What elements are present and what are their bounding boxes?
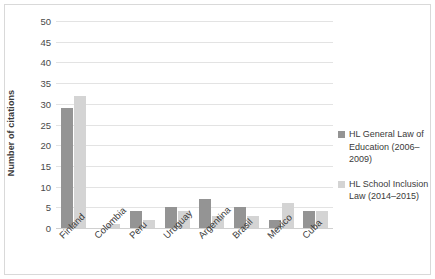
y-tick-label-5: 5 — [46, 202, 51, 213]
bar-series-layer — [56, 21, 333, 228]
y-axis-title-label: Number of citations — [6, 90, 16, 176]
x-label-slot-colombia: Colombia — [91, 230, 126, 275]
bar-group-finland — [56, 21, 91, 228]
bar-finland-series-0 — [61, 108, 73, 228]
bar-group-mexico — [264, 21, 299, 228]
x-label-slot-brasil: Brasil — [229, 230, 264, 275]
y-tick-label-50: 50 — [40, 16, 51, 27]
chart-legend: HL General Law of Education (2006–2009)H… — [338, 128, 432, 215]
bar-finland-series-1 — [74, 96, 86, 228]
y-tick-label-0: 0 — [46, 223, 51, 234]
x-label-slot-mexico: Mexico — [264, 230, 299, 275]
x-label-slot-finland: Finland — [56, 230, 91, 275]
y-tick-label-25: 25 — [40, 119, 51, 130]
y-tick-label-10: 10 — [40, 181, 51, 192]
bar-group-cuba — [298, 21, 333, 228]
x-label-slot-argentina: Argentina — [195, 230, 230, 275]
bar-group-colombia — [91, 21, 126, 228]
plot-area: 50454035302520151050 — [56, 21, 333, 228]
bar-group-uruguay — [160, 21, 195, 228]
y-tick-label-20: 20 — [40, 140, 51, 151]
legend-label-0: HL General Law of Education (2006–2009) — [349, 128, 432, 166]
x-label-slot-cuba: Cuba — [298, 230, 333, 275]
bar-group-argentina — [195, 21, 230, 228]
x-label-slot-peru: Peru — [125, 230, 160, 275]
legend-swatch-icon-0 — [338, 131, 345, 138]
legend-label-1: HL School Inclusion Law (2014–2015) — [349, 178, 432, 203]
x-axis-category-labels: FinlandColombiaPeruUruguayArgentinaBrasi… — [56, 230, 333, 275]
y-tick-label-40: 40 — [40, 57, 51, 68]
legend-item-1[interactable]: HL School Inclusion Law (2014–2015) — [338, 178, 432, 203]
legend-item-0[interactable]: HL General Law of Education (2006–2009) — [338, 128, 432, 166]
y-axis-title: Number of citations — [2, 78, 20, 188]
bar-group-peru — [125, 21, 160, 228]
bar-group-brasil — [229, 21, 264, 228]
y-tick-label-30: 30 — [40, 98, 51, 109]
y-tick-label-15: 15 — [40, 160, 51, 171]
x-label-slot-uruguay: Uruguay — [160, 230, 195, 275]
y-tick-label-35: 35 — [40, 78, 51, 89]
legend-swatch-icon-1 — [338, 181, 345, 188]
y-tick-label-45: 45 — [40, 36, 51, 47]
chart-figure: Number of citations 50454035302520151050… — [0, 0, 435, 279]
